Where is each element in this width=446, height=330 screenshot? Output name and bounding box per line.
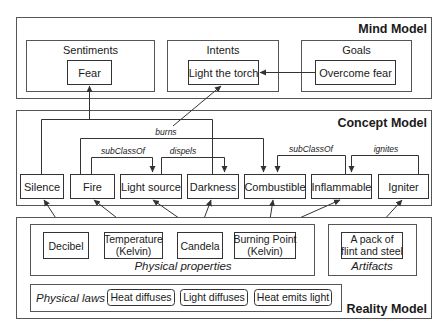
physical-laws-caption: Physical laws: [36, 292, 105, 304]
relation-subclassof-1-label: subClassOf: [101, 146, 147, 156]
light-diffuses-label: Light diffuses: [183, 291, 245, 303]
artifacts-caption: Artifacts: [350, 260, 393, 272]
artifacts-group: Artifacts A pack of flint and steel: [329, 225, 417, 276]
node-fear[interactable]: Fear: [68, 61, 112, 85]
heat-emits-light-label: Heat emits light: [257, 291, 329, 303]
silence-label: Silence: [24, 181, 60, 193]
physical-properties-caption: Physical properties: [134, 260, 231, 272]
goals-label: Goals: [342, 44, 371, 56]
law-light-diffuses[interactable]: Light diffuses: [181, 290, 248, 306]
heat-diffuses-label: Heat diffuses: [110, 291, 171, 303]
temperature-label-line2: (Kelvin): [116, 245, 152, 257]
node-overcome-fear[interactable]: Overcome fear: [316, 61, 396, 85]
flint-label-line1: A pack of: [350, 233, 393, 245]
decibel-label: Decibel: [48, 240, 83, 252]
node-burning-point[interactable]: Burning Point (Kelvin): [233, 233, 296, 259]
node-combustible[interactable]: Combustible: [244, 175, 305, 199]
temperature-label-line1: Temperature: [104, 233, 163, 245]
light-source-label: Light source: [121, 181, 181, 193]
combustible-label: Combustible: [244, 181, 305, 193]
igniter-label: Igniter: [388, 181, 419, 193]
relation-dispels-label: dispels: [170, 146, 197, 156]
relation-ignites-label: ignites: [374, 144, 399, 154]
burning-point-label-line2: (Kelvin): [247, 245, 283, 257]
node-fire[interactable]: Fire: [71, 175, 115, 199]
node-flint-and-steel[interactable]: A pack of flint and steel: [341, 233, 403, 259]
node-igniter[interactable]: Igniter: [379, 175, 429, 199]
fear-label: Fear: [78, 67, 101, 79]
intents-group: Intents Light the torch: [168, 41, 279, 92]
burning-point-label-line1: Burning Point: [233, 233, 296, 245]
concept-model-layer: Concept Model burns subClassOf dispels s…: [17, 86, 432, 206]
candela-label: Candela: [180, 240, 219, 252]
darkness-label: Darkness: [190, 181, 237, 193]
node-light-the-torch[interactable]: Light the torch: [189, 61, 259, 85]
goals-group: Goals Overcome fear: [302, 41, 412, 92]
light-the-torch-label: Light the torch: [189, 67, 259, 79]
law-heat-emits-light[interactable]: Heat emits light: [255, 290, 332, 306]
node-candela[interactable]: Candela: [178, 233, 223, 259]
fire-label: Fire: [83, 181, 102, 193]
node-temperature[interactable]: Temperature (Kelvin): [104, 233, 163, 259]
reality-model-layer: Reality Model Physical properties Decibe…: [17, 218, 432, 319]
sentiments-group: Sentiments Fear: [27, 41, 155, 92]
knowledge-model-diagram: Mind Model Sentiments Fear Intents Light…: [0, 0, 446, 330]
node-light-source[interactable]: Light source: [121, 175, 182, 199]
physical-laws-group: Physical laws Heat diffuses Light diffus…: [31, 285, 342, 312]
inflammable-label: Inflammable: [312, 181, 372, 193]
relation-subclassof-2-label: subClassOf: [289, 144, 335, 154]
reality-model-title: Reality Model: [346, 302, 427, 316]
physical-properties-group: Physical properties Decibel Temperature …: [31, 225, 315, 276]
node-darkness[interactable]: Darkness: [188, 175, 239, 199]
intents-label: Intents: [206, 44, 240, 56]
node-silence[interactable]: Silence: [21, 175, 64, 199]
mind-model-layer: Mind Model Sentiments Fear Intents Light…: [17, 18, 432, 99]
flint-label-line2: flint and steel: [341, 245, 403, 257]
sentiments-label: Sentiments: [63, 44, 119, 56]
node-decibel[interactable]: Decibel: [44, 233, 89, 259]
relation-burns-label: burns: [155, 127, 177, 137]
node-inflammable[interactable]: Inflammable: [312, 175, 372, 199]
overcome-fear-label: Overcome fear: [319, 67, 392, 79]
law-heat-diffuses[interactable]: Heat diffuses: [108, 290, 175, 306]
mind-model-title: Mind Model: [358, 22, 427, 36]
concept-model-title: Concept Model: [337, 116, 427, 130]
